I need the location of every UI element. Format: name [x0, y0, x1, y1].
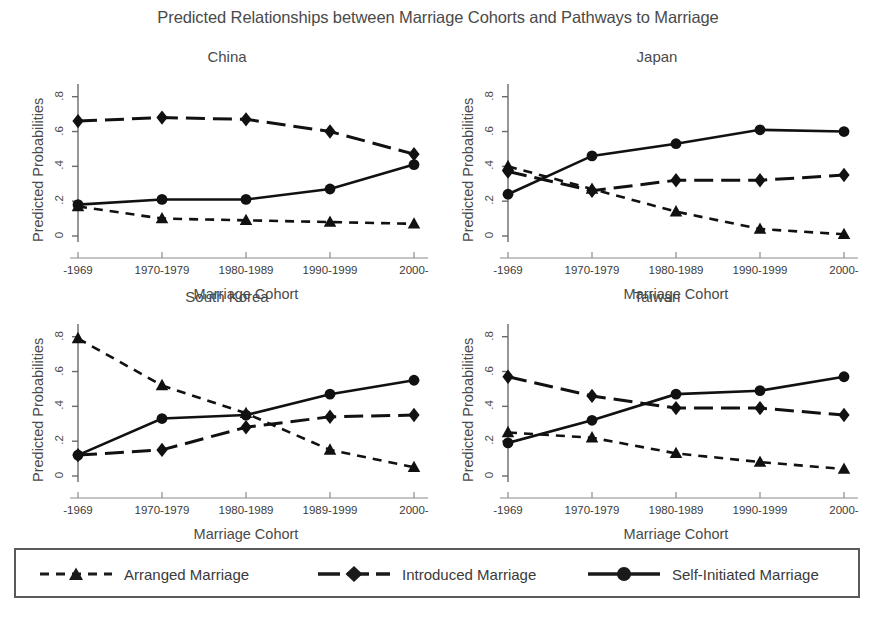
y-tick-label: 0 — [53, 464, 65, 486]
y-tick-label: .6 — [53, 120, 65, 142]
x-tick-label: 1989-1999 — [286, 504, 374, 516]
legend-label: Introduced Marriage — [402, 566, 536, 583]
x-tick-label: 1990-1999 — [716, 264, 804, 276]
series-triangle — [72, 332, 421, 472]
x-tick-label: 1980-1989 — [632, 504, 720, 516]
series-triangle — [502, 160, 851, 239]
y-axis-label: Predicted Probabilities — [460, 338, 476, 482]
x-tick-label: 1980-1989 — [202, 264, 290, 276]
x-tick-label: -1969 — [34, 264, 122, 276]
panel-title: South Korea — [12, 288, 442, 305]
panel-title: Taiwan — [442, 288, 872, 305]
legend-item-arranged: Arranged Marriage — [38, 561, 249, 587]
series-diamond — [72, 110, 419, 161]
plot-area — [442, 306, 872, 521]
chart-figure: Predicted Relationships between Marriage… — [0, 0, 876, 618]
legend-swatch-arranged-icon — [38, 565, 114, 583]
x-tick-label: 1980-1989 — [202, 504, 290, 516]
x-tick-label: 1970-1979 — [118, 264, 206, 276]
plot-area — [12, 66, 442, 281]
panel-japan: Japan 0.2.4.6.8-19691970-19791980-198919… — [442, 48, 872, 288]
y-tick-label: .4 — [483, 394, 495, 416]
y-tick-label: .4 — [483, 154, 495, 176]
y-tick-label: .6 — [483, 360, 495, 382]
x-tick-label: 1980-1989 — [632, 264, 720, 276]
y-tick-label: 0 — [483, 224, 495, 246]
y-axis-label: Predicted Probabilities — [460, 98, 476, 242]
y-tick-label: .6 — [53, 360, 65, 382]
x-tick-label: 1990-1999 — [286, 264, 374, 276]
y-tick-label: .2 — [483, 189, 495, 211]
legend-label: Arranged Marriage — [124, 566, 249, 583]
series-triangle — [502, 426, 851, 474]
y-tick-label: .8 — [53, 325, 65, 347]
y-tick-label: .8 — [53, 85, 65, 107]
series-circle — [503, 124, 850, 199]
y-tick-label: 0 — [483, 464, 495, 486]
y-tick-label: .2 — [53, 189, 65, 211]
y-tick-label: .8 — [483, 85, 495, 107]
y-tick-label: .8 — [483, 325, 495, 347]
legend-item-self-initiated: Self-Initiated Marriage — [586, 561, 819, 587]
y-tick-label: .6 — [483, 120, 495, 142]
legend-label: Self-Initiated Marriage — [672, 566, 819, 583]
x-tick-label: -1969 — [464, 504, 552, 516]
x-axis-label: Marriage Cohort — [58, 526, 434, 542]
plot-area — [442, 66, 872, 281]
x-tick-label: 1970-1979 — [548, 264, 636, 276]
panel-title: China — [12, 48, 442, 65]
x-tick-label: -1969 — [34, 504, 122, 516]
y-axis-label: Predicted Probabilities — [30, 98, 46, 242]
y-tick-label: .2 — [53, 429, 65, 451]
legend-swatch-introduced-icon — [316, 565, 392, 583]
panel-taiwan: Taiwan 0.2.4.6.8-19691970-19791980-19891… — [442, 288, 872, 528]
x-tick-label: -1969 — [464, 264, 552, 276]
series-diamond — [502, 164, 849, 198]
panel-south-korea: South Korea 0.2.4.6.8-19691970-19791980-… — [12, 288, 442, 528]
x-tick-label: 2000- — [800, 504, 876, 516]
x-tick-label: 1990-1999 — [716, 504, 804, 516]
page-title: Predicted Relationships between Marriage… — [0, 8, 876, 27]
y-tick-label: 0 — [53, 224, 65, 246]
y-tick-label: .4 — [53, 154, 65, 176]
x-tick-label: 1970-1979 — [548, 504, 636, 516]
legend-swatch-self-initiated-icon — [586, 565, 662, 583]
y-tick-label: .2 — [483, 429, 495, 451]
panel-title: Japan — [442, 48, 872, 65]
series-circle — [73, 159, 420, 210]
x-tick-label: 2000- — [800, 264, 876, 276]
y-axis-label: Predicted Probabilities — [30, 338, 46, 482]
legend-item-introduced: Introduced Marriage — [316, 561, 536, 587]
series-circle — [73, 375, 420, 461]
x-axis-label: Marriage Cohort — [488, 526, 864, 542]
panel-china: China 0.2.4.6.8-19691970-19791980-198919… — [12, 48, 442, 288]
y-tick-label: .4 — [53, 394, 65, 416]
chart-legend: Arranged Marriage Introduced Marriage Se… — [14, 548, 860, 598]
plot-area — [12, 306, 442, 521]
x-tick-label: 1970-1979 — [118, 504, 206, 516]
